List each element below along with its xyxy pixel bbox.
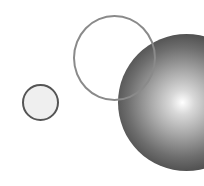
outline-ring [73, 15, 156, 101]
small-light-circle [22, 84, 59, 121]
canvas [0, 0, 204, 186]
